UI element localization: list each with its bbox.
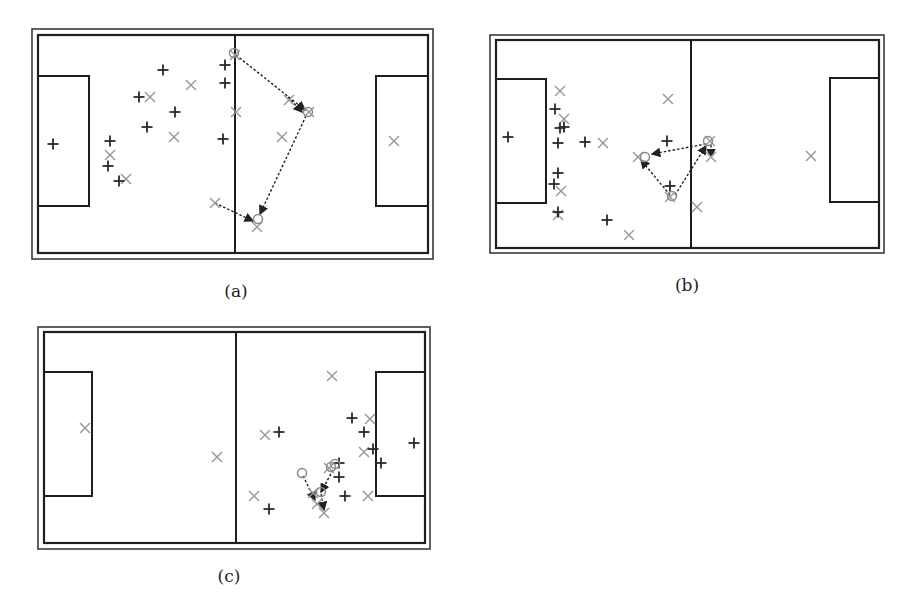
player-plus-marker-icon bbox=[359, 427, 370, 438]
player-x-marker-icon bbox=[105, 150, 115, 160]
player-plus-marker-icon bbox=[48, 139, 59, 150]
player-plus-marker-icon bbox=[220, 60, 231, 71]
player-plus-marker-icon bbox=[170, 107, 181, 118]
player-plus-marker-icon bbox=[580, 137, 591, 148]
player-plus-marker-icon bbox=[553, 207, 564, 218]
ball-circle-icon bbox=[704, 137, 713, 146]
player-x-marker-icon bbox=[186, 80, 196, 90]
player-plus-marker-icon bbox=[114, 176, 125, 187]
player-plus-marker-icon bbox=[142, 122, 153, 133]
player-plus-marker-icon bbox=[553, 168, 564, 179]
player-x-marker-icon bbox=[312, 499, 322, 509]
soccer-pitch-figure bbox=[0, 0, 911, 610]
pass-arrow-icon bbox=[260, 116, 306, 214]
right-penalty-box bbox=[376, 372, 425, 496]
left-penalty-box bbox=[38, 76, 89, 206]
player-x-marker-icon bbox=[692, 202, 702, 212]
player-x-marker-icon bbox=[169, 132, 179, 142]
player-plus-marker-icon bbox=[550, 104, 561, 115]
player-plus-marker-icon bbox=[103, 161, 114, 172]
player-plus-marker-icon bbox=[553, 138, 564, 149]
caption-panel-b: (b) bbox=[675, 275, 699, 295]
player-plus-marker-icon bbox=[134, 92, 145, 103]
player-plus-marker-icon bbox=[334, 472, 345, 483]
player-x-marker-icon bbox=[806, 151, 816, 161]
player-x-marker-icon bbox=[624, 230, 634, 240]
left-penalty-box bbox=[496, 79, 546, 203]
player-x-marker-icon bbox=[212, 452, 222, 462]
pass-arrow-icon bbox=[641, 160, 670, 195]
player-plus-marker-icon bbox=[274, 427, 285, 438]
player-plus-marker-icon bbox=[340, 491, 351, 502]
pitch-panel-b bbox=[490, 35, 884, 253]
pitch-outer-frame bbox=[32, 29, 433, 259]
caption-panel-a: (a) bbox=[224, 281, 247, 301]
player-plus-marker-icon bbox=[105, 136, 116, 147]
ball-circle-icon bbox=[254, 215, 263, 224]
pitch-panel-a bbox=[32, 29, 433, 259]
pitch-outer-frame bbox=[490, 35, 884, 253]
pitch-boundary bbox=[496, 40, 879, 248]
pass-arrow-icon bbox=[236, 55, 305, 110]
player-x-marker-icon bbox=[145, 92, 155, 102]
player-x-marker-icon bbox=[260, 430, 270, 440]
player-plus-marker-icon bbox=[347, 413, 358, 424]
player-plus-marker-icon bbox=[376, 458, 387, 469]
player-x-marker-icon bbox=[277, 132, 287, 142]
player-x-marker-icon bbox=[327, 371, 337, 381]
player-x-marker-icon bbox=[706, 152, 716, 162]
player-x-marker-icon bbox=[663, 94, 673, 104]
player-x-marker-icon bbox=[598, 138, 608, 148]
player-plus-marker-icon bbox=[602, 215, 613, 226]
pitch-panel-c bbox=[38, 327, 430, 549]
player-plus-marker-icon bbox=[409, 438, 420, 449]
right-penalty-box bbox=[830, 78, 879, 202]
player-x-marker-icon bbox=[556, 186, 566, 196]
player-x-marker-icon bbox=[249, 491, 259, 501]
player-plus-marker-icon bbox=[662, 136, 673, 147]
pitch-boundary bbox=[38, 35, 428, 253]
player-plus-marker-icon bbox=[503, 132, 514, 143]
player-x-marker-icon bbox=[365, 414, 375, 424]
caption-panel-c: (c) bbox=[218, 566, 241, 586]
pitch-boundary bbox=[44, 332, 425, 543]
ball-circle-icon bbox=[641, 153, 650, 162]
player-plus-marker-icon bbox=[218, 134, 229, 145]
player-plus-marker-icon bbox=[264, 504, 275, 515]
player-x-marker-icon bbox=[80, 423, 90, 433]
player-plus-marker-icon bbox=[158, 65, 169, 76]
pitch-outer-frame bbox=[38, 327, 430, 549]
right-penalty-box bbox=[376, 76, 428, 206]
left-penalty-box bbox=[44, 372, 92, 496]
player-plus-marker-icon bbox=[220, 78, 231, 89]
pass-arrow-icon bbox=[652, 144, 706, 154]
player-x-marker-icon bbox=[389, 136, 399, 146]
ball-circle-icon bbox=[298, 469, 307, 478]
player-x-marker-icon bbox=[210, 198, 220, 208]
player-x-marker-icon bbox=[121, 174, 131, 184]
player-x-marker-icon bbox=[363, 491, 373, 501]
player-x-marker-icon bbox=[555, 86, 565, 96]
